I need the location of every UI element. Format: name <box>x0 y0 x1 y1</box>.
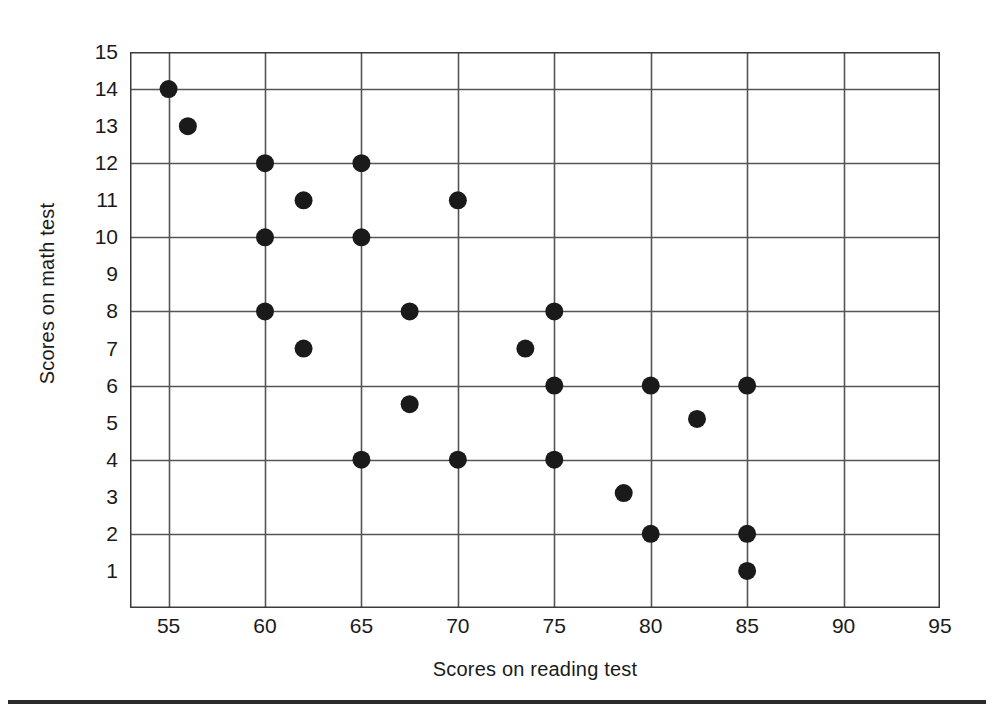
data-point <box>642 525 660 543</box>
y-axis-title: Scores on math test <box>36 144 59 444</box>
data-point <box>449 191 467 209</box>
axes-frame <box>131 53 940 608</box>
y-tick-label: 2 <box>78 523 118 544</box>
x-axis-tick-labels: 556065707580859095 <box>0 615 994 645</box>
data-point <box>352 228 370 246</box>
data-point <box>738 525 756 543</box>
data-point <box>401 302 419 320</box>
data-point <box>352 154 370 172</box>
y-tick-label: 10 <box>78 226 118 247</box>
bottom-rule <box>8 700 986 704</box>
x-tick-label: 70 <box>428 615 488 636</box>
data-point <box>295 191 313 209</box>
data-point <box>545 377 563 395</box>
data-point <box>615 484 633 502</box>
plot-area <box>130 52 940 608</box>
data-point <box>160 80 178 98</box>
plot-canvas <box>130 52 940 608</box>
y-tick-label: 11 <box>78 189 118 210</box>
y-tick-label: 4 <box>78 449 118 470</box>
data-point <box>179 117 197 135</box>
y-tick-label: 15 <box>78 41 118 62</box>
y-tick-label: 8 <box>78 300 118 321</box>
data-point <box>401 395 419 413</box>
y-tick-label: 9 <box>78 263 118 284</box>
y-tick-label: 7 <box>78 338 118 359</box>
data-point <box>738 562 756 580</box>
x-tick-label: 60 <box>235 615 295 636</box>
y-tick-label: 6 <box>78 375 118 396</box>
data-point <box>256 302 274 320</box>
y-axis-tick-labels: 123456789101112131415 <box>72 0 118 721</box>
scatter-plot-figure: Scores on math test 12345678910111213141… <box>0 0 994 721</box>
y-tick-label: 13 <box>78 115 118 136</box>
data-point <box>256 228 274 246</box>
data-point <box>545 451 563 469</box>
data-point <box>295 340 313 358</box>
data-point <box>545 302 563 320</box>
x-tick-label: 75 <box>524 615 584 636</box>
gridlines <box>130 52 940 608</box>
x-tick-label: 55 <box>139 615 199 636</box>
data-point <box>352 451 370 469</box>
y-tick-label: 5 <box>78 412 118 433</box>
x-tick-label: 85 <box>717 615 777 636</box>
x-tick-label: 95 <box>910 615 970 636</box>
x-tick-label: 80 <box>621 615 681 636</box>
x-tick-label: 65 <box>331 615 391 636</box>
data-point <box>688 410 706 428</box>
data-point <box>738 377 756 395</box>
y-tick-label: 3 <box>78 486 118 507</box>
data-point <box>516 340 534 358</box>
data-point <box>256 154 274 172</box>
y-tick-label: 14 <box>78 78 118 99</box>
x-axis-title: Scores on reading test <box>130 658 940 681</box>
data-point <box>449 451 467 469</box>
x-tick-label: 90 <box>814 615 874 636</box>
y-tick-label: 12 <box>78 152 118 173</box>
data-point <box>642 377 660 395</box>
y-tick-label: 1 <box>78 560 118 581</box>
